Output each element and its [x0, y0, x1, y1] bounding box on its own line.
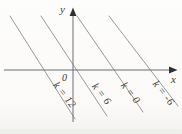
line-k-12-label: k = 12: [51, 80, 78, 111]
y-axis-arrow-icon: [70, 8, 77, 17]
line-k-6-label: k = 6: [90, 81, 114, 107]
math-figure: xy0k = 12k = 6k = 0k = -6: [0, 0, 182, 134]
origin-label: 0: [62, 72, 67, 83]
figure-svg: xy0k = 12k = 6k = 0k = -6: [0, 0, 182, 134]
line-k-0-label: k = 0: [119, 80, 143, 106]
x-axis-label: x: [170, 73, 176, 85]
y-axis-label: y: [59, 3, 65, 15]
